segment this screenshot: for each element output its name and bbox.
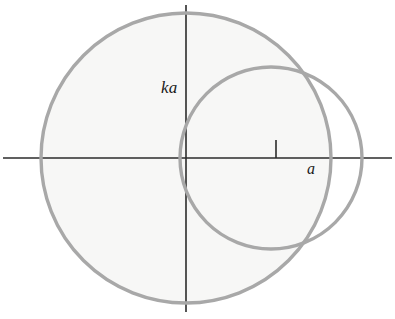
figure-container: ka a	[0, 0, 395, 319]
x-axis-label: a	[307, 161, 315, 177]
diagram-canvas	[0, 0, 395, 319]
y-axis-label: ka	[161, 79, 177, 96]
